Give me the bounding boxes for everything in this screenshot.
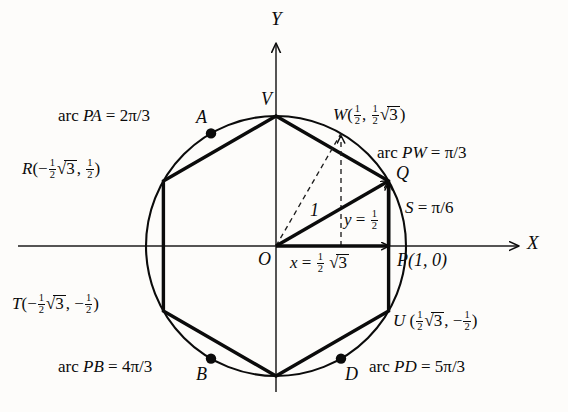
coord-U-minus2: − — [453, 311, 463, 330]
point-label-A: A — [196, 107, 207, 128]
arc-PD-eq: = — [421, 357, 431, 376]
coord-R-sqrt: √3 — [57, 159, 77, 179]
coord-label-U: U (12√3, −12) — [393, 310, 477, 333]
coord-label-W: W(12, 12√3) — [333, 104, 405, 127]
coord-W-open: ( — [347, 105, 353, 124]
arc-PW-pair: PW — [402, 143, 427, 162]
annotation-arc-PD: arc PD = 5π/3 — [369, 357, 465, 377]
coord-T-y-fraction: 12 — [85, 293, 92, 316]
arc-PW-lead: arc — [377, 143, 398, 162]
leg-x-var: x — [290, 253, 298, 272]
coord-W-x-den: 2 — [354, 116, 361, 127]
annotation-arc-PW: arc PW = π/3 — [377, 143, 466, 163]
arc-PB-pi: π — [130, 357, 139, 376]
leg-y-den: 2 — [371, 221, 378, 232]
coord-T-close: ) — [93, 294, 99, 313]
coord-W-name: W — [333, 105, 347, 124]
coord-R-y-fraction: 12 — [86, 158, 93, 181]
annotation-arc-PB: arc PB = 4π/3 — [58, 357, 152, 377]
leg-x-den: 2 — [317, 264, 324, 275]
annotation-arc-S: S = π/6 — [405, 198, 453, 218]
coord-label-T: T(−12√3, −12) — [12, 293, 99, 316]
leg-x-eq: = — [302, 253, 312, 272]
arc-PA-pi: π — [128, 106, 137, 125]
coord-W-sqrt: √3 — [380, 105, 400, 125]
arc-PW-pi: π — [445, 143, 454, 162]
leg-y-fraction: 12 — [371, 209, 378, 232]
geometry-svg — [0, 0, 568, 412]
arc-S-name: S — [405, 198, 414, 217]
coord-U-comma: , — [444, 311, 448, 330]
arc-PA-lead: arc — [58, 106, 79, 125]
coord-T-x-den: 2 — [38, 305, 45, 316]
label-hypotenuse-length: 1 — [310, 200, 319, 221]
arc-PB-den: /3 — [139, 357, 152, 376]
coord-T-y-den: 2 — [85, 305, 92, 316]
coord-T-x-fraction: 12 — [38, 293, 45, 316]
arc-S-den: /6 — [440, 198, 453, 217]
arc-PD-num: 5 — [435, 357, 444, 376]
arc-PW-den: /3 — [453, 143, 466, 162]
arc-S-eq: = — [418, 198, 428, 217]
label-leg-x: x = 12 √3 — [290, 252, 349, 275]
coord-T-minus: − — [27, 294, 37, 313]
coord-U-x-fraction: 12 — [416, 310, 423, 333]
coord-U-x-den: 2 — [416, 322, 423, 333]
point-label-P: P(1, 0) — [397, 250, 447, 271]
arc-S-pi: π — [432, 198, 441, 217]
coord-W-comma: , — [362, 105, 366, 124]
coord-T-comma: , — [66, 294, 70, 313]
leg-y-eq: = — [356, 210, 366, 229]
coord-U-y-fraction: 12 — [463, 310, 470, 333]
arc-PD-den: /3 — [452, 357, 465, 376]
coord-T-radicand: 3 — [55, 294, 64, 313]
coord-U-sqrt: √3 — [424, 311, 444, 331]
arc-PA-den: /3 — [137, 106, 150, 125]
point-B-dot — [206, 353, 216, 363]
coord-R-x-fraction: 12 — [49, 158, 56, 181]
coord-U-open: ( — [410, 311, 416, 330]
point-P-text: P(1, 0) — [397, 250, 447, 270]
arc-PB-pair: PB — [83, 357, 104, 376]
coord-U-name: U — [393, 311, 405, 330]
y-axis-label: Y — [271, 8, 282, 30]
point-D-dot — [336, 353, 346, 363]
coord-R-minus: − — [38, 159, 48, 178]
coord-R-comma: , — [77, 159, 81, 178]
arc-PD-pi: π — [443, 357, 452, 376]
point-label-V: V — [261, 89, 272, 110]
coord-W-y-fraction: 12 — [372, 104, 379, 127]
coord-W-y-den: 2 — [372, 116, 379, 127]
figure-canvas: Y X O V Q A B D P(1, 0) arc PA = 2π/3 ar… — [0, 0, 568, 412]
coord-R-radicand: 3 — [66, 159, 75, 178]
arc-PA-pair: PA — [83, 106, 102, 125]
coord-T-minus2: − — [74, 294, 84, 313]
point-label-B: B — [196, 364, 207, 385]
coord-R-x-den: 2 — [49, 170, 56, 181]
arc-PD-lead: arc — [369, 357, 390, 376]
arc-PB-eq: = — [108, 357, 118, 376]
point-label-D: D — [345, 364, 358, 385]
leg-x-radicand: 3 — [339, 253, 348, 272]
coord-R-close: ) — [95, 159, 101, 178]
arc-PA-num: 2 — [120, 106, 129, 125]
coord-T-sqrt: √3 — [46, 294, 66, 314]
x-axis-label: X — [527, 232, 539, 254]
coord-U-close: ) — [472, 311, 478, 330]
leg-y-var: y — [344, 210, 352, 229]
arc-PA-eq: = — [106, 106, 116, 125]
coord-R-y-den: 2 — [86, 170, 93, 181]
origin-label: O — [258, 249, 271, 270]
coord-W-radicand: 3 — [389, 105, 398, 124]
coord-W-close: ) — [400, 105, 406, 124]
label-leg-y: y = 12 — [344, 209, 379, 232]
coord-label-R: R(−12√3, 12) — [22, 158, 100, 181]
point-A-dot — [206, 128, 216, 138]
annotation-arc-PA: arc PA = 2π/3 — [58, 106, 150, 126]
leg-x-sqrt: √3 — [329, 253, 349, 273]
coord-U-radicand: 3 — [434, 311, 443, 330]
arc-PD-pair: PD — [394, 357, 417, 376]
arc-PW-eq: = — [431, 143, 441, 162]
arc-PB-lead: arc — [58, 357, 79, 376]
coord-W-x-fraction: 12 — [354, 104, 361, 127]
